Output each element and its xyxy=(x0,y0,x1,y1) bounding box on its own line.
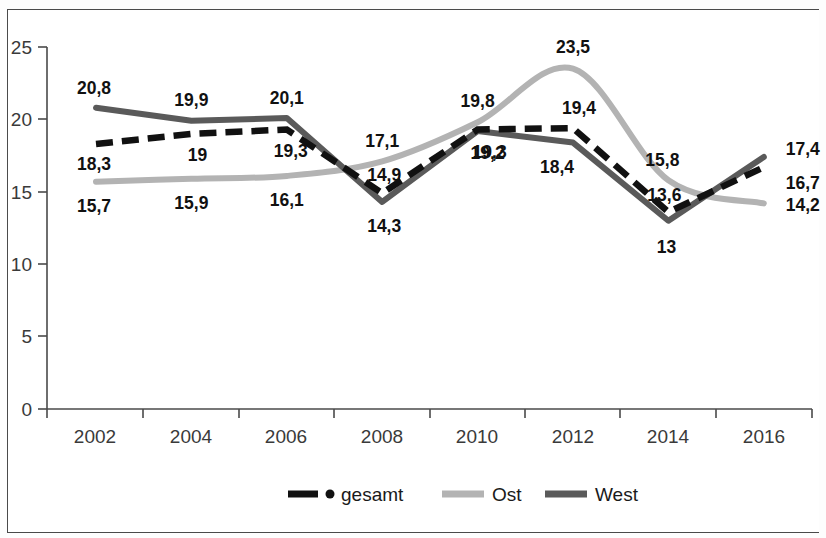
y-axis xyxy=(38,47,47,409)
value-label-gesamt-2016: 16,7 xyxy=(786,173,820,193)
y-tick-label-0: 0 xyxy=(21,399,32,420)
x-tick-label-2008: 2008 xyxy=(361,426,403,447)
y-axis-tick-labels: 25 20 15 10 5 0 xyxy=(11,37,32,420)
value-label-west-2008: 14,3 xyxy=(367,216,401,236)
x-axis-tick-labels: 2002 2004 2006 2008 2010 2012 2014 2016 xyxy=(74,426,785,447)
value-label-gesamt-2012: 19,4 xyxy=(562,98,596,118)
y-tick-label-5: 5 xyxy=(21,326,32,347)
chart-legend: gesamt Ost West xyxy=(288,484,639,505)
value-label-gesamt-2008: 14,9 xyxy=(367,165,401,185)
value-label-ost-2008: 17,1 xyxy=(365,131,399,151)
value-label-gesamt-2014: 13,6 xyxy=(647,185,681,205)
y-tick-label-10: 10 xyxy=(11,254,32,275)
value-label-ost-2004: 15,9 xyxy=(174,193,208,213)
value-label-ost-2014: 15,8 xyxy=(645,150,679,170)
value-label-ost-2012: 23,5 xyxy=(556,37,590,57)
value-label-west-2002: 20,8 xyxy=(77,78,111,98)
x-tick-label-2010: 2010 xyxy=(456,426,498,447)
value-label-ost-2002: 15,7 xyxy=(77,196,111,216)
chart-figure: 25 20 15 10 5 0 2002 2004 2006 2008 2010 xyxy=(0,0,826,538)
value-label-west-2016: 17,4 xyxy=(786,139,820,159)
x-tick-label-2004: 2004 xyxy=(170,426,213,447)
value-label-west-2004: 19,9 xyxy=(174,90,208,110)
value-label-ost-2016: 14,2 xyxy=(786,195,820,215)
value-label-west-2012: 18,4 xyxy=(540,157,574,177)
value-label-gesamt-2002: 18,3 xyxy=(77,154,111,174)
y-tick-label-20: 20 xyxy=(11,109,32,130)
x-tick-label-2014: 2014 xyxy=(647,426,690,447)
series-line-ost xyxy=(96,67,764,203)
value-label-ost-2006: 16,1 xyxy=(270,190,304,210)
line-chart: 25 20 15 10 5 0 2002 2004 2006 2008 2010 xyxy=(0,0,826,538)
legend-label-west: West xyxy=(595,484,639,505)
legend-item-ost[interactable]: Ost xyxy=(442,484,522,505)
value-label-gesamt-2004: 19 xyxy=(188,145,208,165)
x-tick-label-2006: 2006 xyxy=(265,426,307,447)
x-tick-label-2016: 2016 xyxy=(743,426,785,447)
value-label-gesamt-2006: 19,3 xyxy=(274,141,308,161)
value-label-west-2014: 13 xyxy=(657,237,677,257)
x-tick-label-2002: 2002 xyxy=(74,426,116,447)
value-label-west-2010: 19,2 xyxy=(471,143,505,163)
x-tick-label-2012: 2012 xyxy=(552,426,594,447)
legend-label-ost: Ost xyxy=(492,484,522,505)
x-axis xyxy=(47,409,812,418)
data-value-labels: 18,31919,314,919,319,413,616,715,715,916… xyxy=(77,37,820,257)
legend-marker-dot-gesamt xyxy=(326,490,335,499)
y-tick-label-25: 25 xyxy=(11,37,32,58)
y-tick-label-15: 15 xyxy=(11,182,32,203)
legend-item-west[interactable]: West xyxy=(545,484,639,505)
value-label-ost-2010: 19,8 xyxy=(461,91,495,111)
value-label-west-2006: 20,1 xyxy=(270,88,304,108)
legend-label-gesamt: gesamt xyxy=(341,484,404,505)
legend-item-gesamt[interactable]: gesamt xyxy=(288,484,404,505)
